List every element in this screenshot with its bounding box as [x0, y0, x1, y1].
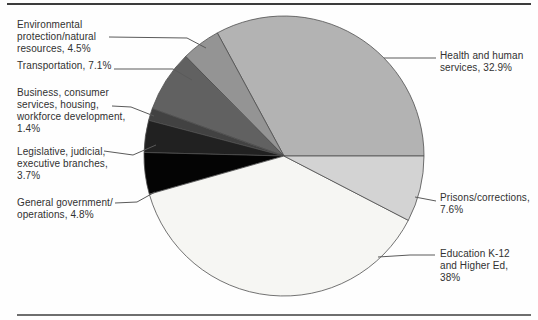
chart-area: Environmental protection/natural resourc… — [0, 0, 538, 320]
label-health: Health and human services, 32.9% — [440, 50, 536, 74]
label-general-government: General government/ operations, 4.8% — [17, 197, 149, 221]
leader-line-prisons — [415, 197, 436, 201]
label-legislative: Legislative, judicial, executive branche… — [17, 146, 149, 182]
label-prisons: Prisons/corrections, 7.6% — [440, 192, 536, 216]
label-environmental: Environmental protection/natural resourc… — [17, 19, 149, 55]
label-business: Business, consumer services, housing, wo… — [17, 87, 149, 135]
leader-line-education — [378, 255, 435, 257]
label-transportation: Transportation, 7.1% — [17, 60, 149, 72]
label-education: Education K-12 and Higher Ed, 38% — [440, 248, 536, 284]
